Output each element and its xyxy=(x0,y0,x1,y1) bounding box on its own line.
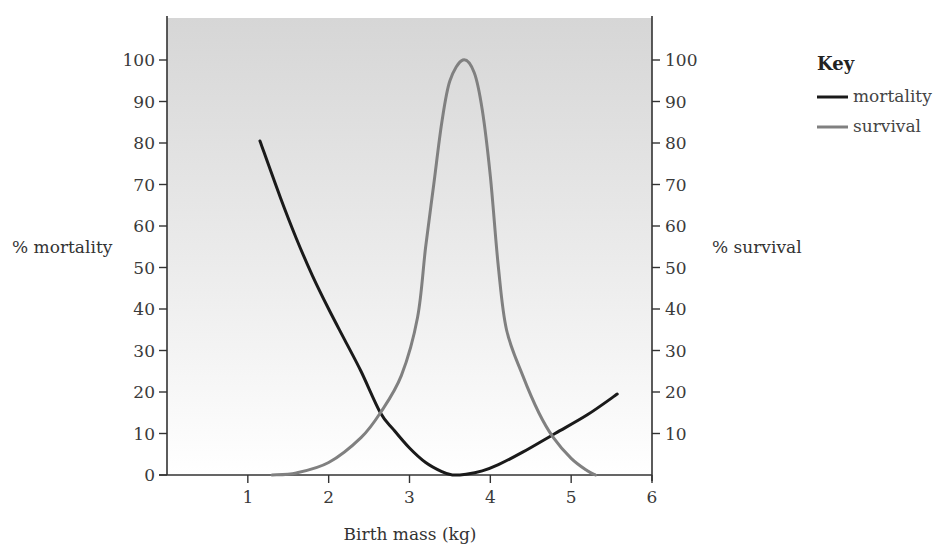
x-tick-label: 1 xyxy=(242,487,253,507)
y-tick-label-left: 30 xyxy=(133,341,155,361)
y-tick-label-right: 60 xyxy=(665,216,687,236)
y-tick-label-right: 20 xyxy=(665,382,687,402)
y-tick-label-left: 40 xyxy=(133,299,155,319)
y-axis-right-title: % survival xyxy=(712,237,802,257)
y-tick-label-left: 90 xyxy=(133,92,155,112)
y-axis-left-title: % mortality xyxy=(12,237,113,257)
y-tick-label-right: 10 xyxy=(665,424,687,444)
x-tick-label: 5 xyxy=(566,487,577,507)
chart: 0102030405060708090100102030405060708090… xyxy=(0,0,950,559)
y-tick-label-right: 80 xyxy=(665,133,687,153)
x-tick-label: 3 xyxy=(404,487,415,507)
y-tick-label-left: 70 xyxy=(133,175,155,195)
y-tick-label-left: 50 xyxy=(133,258,155,278)
y-tick-label-left: 20 xyxy=(133,382,155,402)
y-tick-label-right: 40 xyxy=(665,299,687,319)
y-tick-label-left: 10 xyxy=(133,424,155,444)
legend: Key mortality survival xyxy=(817,53,932,136)
y-tick-label-left: 0 xyxy=(144,465,155,485)
y-tick-label-right: 90 xyxy=(665,92,687,112)
y-tick-label-left: 60 xyxy=(133,216,155,236)
y-tick-label-right: 100 xyxy=(665,50,697,70)
x-axis-title: Birth mass (kg) xyxy=(344,524,477,544)
legend-label-mortality: mortality xyxy=(853,86,932,106)
y-tick-label-left: 100 xyxy=(123,50,155,70)
y-tick-label-left: 80 xyxy=(133,133,155,153)
y-tick-label-right: 70 xyxy=(665,175,687,195)
x-tick-label: 2 xyxy=(323,487,334,507)
legend-title: Key xyxy=(817,53,855,74)
legend-label-survival: survival xyxy=(853,116,921,136)
x-tick-label: 6 xyxy=(647,487,658,507)
y-tick-label-right: 30 xyxy=(665,341,687,361)
y-tick-label-right: 50 xyxy=(665,258,687,278)
x-tick-label: 4 xyxy=(485,487,496,507)
plot-background xyxy=(167,18,652,475)
